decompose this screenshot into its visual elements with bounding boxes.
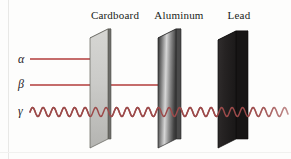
- ray-label-beta-text: β: [18, 77, 24, 91]
- barrier-label-cardboard: Cardboard: [91, 9, 139, 21]
- barrier-label-aluminum: Aluminum: [154, 9, 203, 21]
- cardboard-front-face: [90, 29, 108, 148]
- barrier-label-aluminum-text: Aluminum: [154, 9, 203, 21]
- ray-label-gamma-text: γ: [18, 104, 23, 118]
- aluminum-side-face: [176, 29, 181, 139]
- ray-label-beta: β: [18, 78, 24, 90]
- cardboard-side-face: [108, 29, 111, 139]
- ray-label-alpha: α: [18, 53, 24, 65]
- barrier-aluminum: [158, 29, 181, 148]
- barrier-label-lead: Lead: [228, 9, 251, 21]
- ray-label-alpha-text: α: [18, 52, 24, 66]
- lead-front-face: [218, 31, 236, 148]
- barrier-label-cardboard-text: Cardboard: [91, 9, 139, 21]
- barrier-label-lead-text: Lead: [228, 9, 251, 21]
- barrier-lead: [218, 31, 248, 148]
- aluminum-front-face: [158, 29, 176, 148]
- barrier-cardboard: [90, 29, 111, 148]
- lead-side-face: [236, 31, 248, 139]
- radiation-penetration-figure: Cardboard Aluminum Lead α β γ: [0, 0, 291, 159]
- ray-label-gamma: γ: [18, 105, 23, 117]
- diagram-canvas: [0, 0, 291, 159]
